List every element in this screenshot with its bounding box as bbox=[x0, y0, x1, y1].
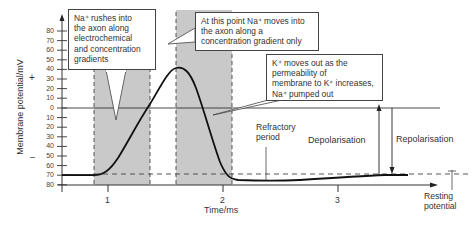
callout-na-rush: Na⁺ rushes into the axon along electroch… bbox=[68, 9, 156, 70]
callout-k-out: K⁺ moves out as the permeability of memb… bbox=[266, 54, 383, 101]
y-plus-sign: + bbox=[29, 73, 35, 83]
y-axis-label: Membrane potential/mV bbox=[15, 47, 25, 167]
refractory-period-label: Refractory period bbox=[256, 122, 296, 142]
callout-na-concentration: At this point Na⁺ moves into the axon al… bbox=[195, 12, 319, 51]
y-minus-sign: – bbox=[30, 152, 35, 162]
resting-potential-label: Resting potential bbox=[424, 191, 457, 211]
repolarisation-label: Repolarisation bbox=[396, 134, 454, 144]
x-axis-label: Time/ms bbox=[204, 205, 238, 215]
x-tick-3: 3 bbox=[335, 195, 340, 205]
depolarisation-label: Depolarisation bbox=[308, 135, 366, 145]
y-axis bbox=[57, 14, 67, 192]
x-tick-2: 2 bbox=[220, 195, 225, 205]
x-tick-1: 1 bbox=[105, 195, 110, 205]
